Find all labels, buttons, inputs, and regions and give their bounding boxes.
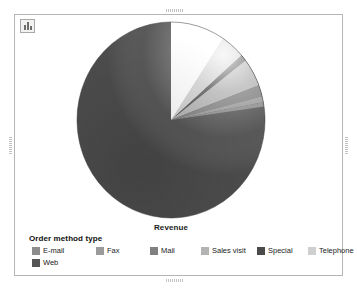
legend-item[interactable]: Telephone [308, 246, 354, 255]
legend-swatch [32, 259, 40, 267]
legend-item-label: Mail [161, 246, 175, 255]
resize-handle-right[interactable] [345, 137, 348, 155]
screenshot-root: Revenue Order method type E-mailFaxMailS… [0, 0, 357, 292]
legend-item[interactable]: Fax [96, 246, 120, 255]
legend-item-label: Web [43, 258, 58, 267]
legend-item-label: Fax [107, 246, 120, 255]
legend-swatch [96, 247, 104, 255]
legend-item[interactable]: E-mail [32, 246, 64, 255]
legend-item[interactable]: Special [257, 246, 293, 255]
legend-swatch [32, 247, 40, 255]
resize-handle-top[interactable] [166, 9, 184, 12]
bar-chart-icon-bar [24, 25, 26, 30]
legend-items: E-mailFaxMailSales visitSpecialTelephone… [29, 246, 334, 270]
legend-item-label: Telephone [319, 246, 354, 255]
legend-item[interactable]: Sales visit [201, 246, 246, 255]
legend-item-label: Special [268, 246, 293, 255]
legend-swatch [308, 247, 316, 255]
chart-container: Revenue Order method type E-mailFaxMailS… [14, 14, 343, 276]
pie-shadow-overlay [77, 22, 265, 218]
legend-title: Order method type [29, 234, 334, 243]
bar-chart-icon[interactable] [20, 19, 35, 33]
legend-item-label: E-mail [43, 246, 64, 255]
resize-handle-bottom[interactable] [166, 279, 184, 282]
legend: Order method type E-mailFaxMailSales vis… [29, 234, 334, 270]
pie-chart[interactable]: Revenue [75, 20, 267, 232]
legend-swatch [201, 247, 209, 255]
resize-handle-left[interactable] [9, 137, 12, 155]
legend-swatch [150, 247, 158, 255]
pie-chart-svg [75, 20, 267, 232]
legend-item[interactable]: Web [32, 258, 58, 267]
legend-swatch [257, 247, 265, 255]
legend-item[interactable]: Mail [150, 246, 175, 255]
legend-item-label: Sales visit [212, 246, 246, 255]
pie-measure-label: Revenue [75, 223, 267, 232]
bar-chart-icon-bar [30, 26, 32, 30]
bar-chart-icon-bar [27, 22, 29, 30]
